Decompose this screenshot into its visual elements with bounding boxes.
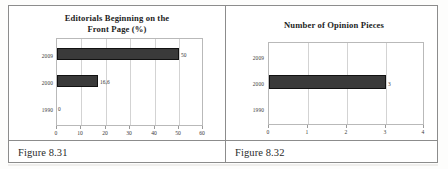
gridline-left-50: [179, 39, 180, 125]
xtick-mark-left-50: [178, 126, 179, 129]
document-page: Editorials Beginning on the Front Page (…: [0, 0, 448, 169]
xtick-mark-left-10: [80, 126, 81, 129]
plot-area-right: [268, 42, 424, 125]
chart-title-left-line1: Editorials Beginning on the: [9, 13, 225, 24]
xtick-mark-left-30: [129, 126, 130, 129]
xtick-mark-right-3: [385, 125, 386, 128]
chart-title-left: Editorials Beginning on the Front Page (…: [9, 13, 225, 34]
bar-right-2000: [269, 75, 386, 89]
figure-cell-left: Editorials Beginning on the Front Page (…: [9, 6, 225, 140]
xtick-label-left-10: 10: [70, 130, 90, 136]
xtick-label-left-30: 30: [119, 130, 139, 136]
bar-value-left-2000: 16,6: [100, 79, 110, 85]
xtick-mark-right-4: [423, 125, 424, 128]
xtick-label-left-40: 40: [144, 130, 164, 136]
xtick-label-right-2: 2: [336, 129, 356, 135]
chart-title-right: Number of Opinion Pieces: [226, 20, 442, 31]
xtick-label-left-60: 60: [192, 130, 212, 136]
bar-left-2009: [57, 48, 179, 60]
xtick-label-right-0: 0: [258, 129, 278, 135]
figure-caption-left: Figure 8.31: [18, 147, 68, 158]
bar-value-right-2000: 3: [388, 81, 391, 87]
xtick-mark-right-0: [268, 125, 269, 128]
bar-value-left-2009: 50: [181, 52, 187, 58]
xtick-label-left-20: 20: [95, 130, 115, 136]
xtick-label-left-50: 50: [168, 130, 188, 136]
xtick-label-left-0: 0: [46, 130, 66, 136]
figure-caption-cell-right: Figure 8.32: [226, 141, 438, 164]
xtick-mark-right-1: [307, 125, 308, 128]
ytick-label-left-2: 1990: [29, 107, 53, 113]
xtick-mark-left-0: [56, 126, 57, 129]
chart-editorials-front-page: Editorials Beginning on the Front Page (…: [9, 6, 225, 140]
bar-left-2000: [57, 75, 98, 87]
chart-title-right-line1: Number of Opinion Pieces: [226, 20, 442, 31]
ytick-label-right-1: 2000: [240, 81, 264, 87]
figure-caption-cell-left: Figure 8.31: [9, 141, 225, 164]
ytick-label-left-1: 2000: [29, 80, 53, 86]
scan-edge: [8, 164, 438, 166]
chart-title-left-line2: Front Page (%): [9, 24, 225, 35]
xtick-label-right-3: 3: [375, 129, 395, 135]
xtick-label-right-4: 4: [413, 129, 433, 135]
figure-table: Editorials Beginning on the Front Page (…: [8, 5, 438, 163]
xtick-mark-left-60: [202, 126, 203, 129]
chart-number-opinion-pieces: Number of Opinion Pieces 2009 2000 1990 …: [226, 6, 442, 140]
xtick-label-right-1: 1: [297, 129, 317, 135]
xtick-mark-right-2: [346, 125, 347, 128]
xtick-mark-left-20: [105, 126, 106, 129]
xtick-mark-left-40: [154, 126, 155, 129]
bar-value-left-1990: 0: [58, 106, 61, 112]
figure-caption-right: Figure 8.32: [235, 147, 285, 158]
gridline-right-3: [386, 43, 387, 124]
ytick-label-right-2: 1990: [240, 107, 264, 113]
figure-cell-right: Number of Opinion Pieces 2009 2000 1990 …: [226, 6, 442, 140]
ytick-label-left-0: 2009: [29, 53, 53, 59]
ytick-label-right-0: 2009: [240, 55, 264, 61]
